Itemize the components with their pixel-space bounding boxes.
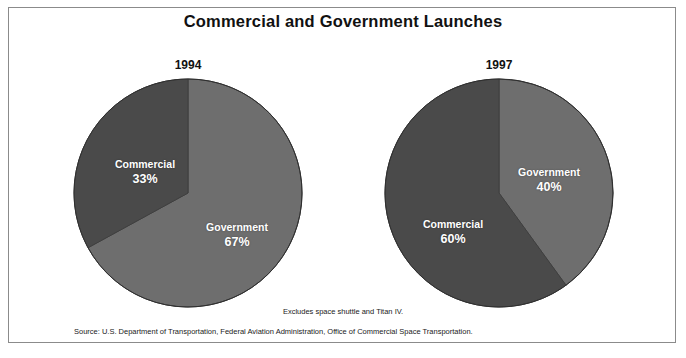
chart-title: Commercial and Government Launches (0, 12, 686, 31)
pie-year-label-1994: 1994 (72, 58, 304, 72)
pie-panel-1994: 1994 Commercial 33% Government 67% (72, 58, 304, 309)
pie-svg-1994 (72, 77, 304, 309)
pie-panel-1997: 1997 Government 40% Commercial 60% (383, 58, 615, 309)
pie-chart-1994: Commercial 33% Government 67% (72, 77, 304, 309)
pie-year-label-1997: 1997 (383, 58, 615, 72)
chart-source-note: Source: U.S. Department of Transportatio… (74, 327, 473, 336)
pie-chart-1997: Government 40% Commercial 60% (383, 77, 615, 309)
chart-figure: Commercial and Government Launches 1994 … (0, 0, 686, 358)
chart-footnote: Excludes space shuttle and Titan IV. (0, 307, 686, 316)
pie-svg-1997 (383, 77, 615, 309)
